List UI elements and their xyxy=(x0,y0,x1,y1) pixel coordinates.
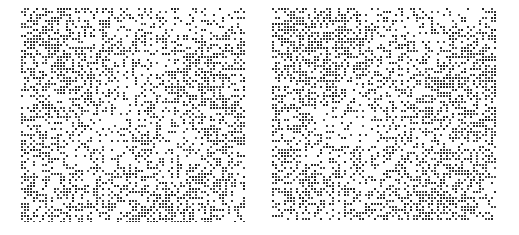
matrix-plot-left xyxy=(21,8,246,222)
matrix-panel-right xyxy=(272,8,498,221)
matrix-plot-right xyxy=(272,8,497,221)
figure-canvas xyxy=(0,0,519,235)
matrix-panel-left xyxy=(21,8,248,222)
